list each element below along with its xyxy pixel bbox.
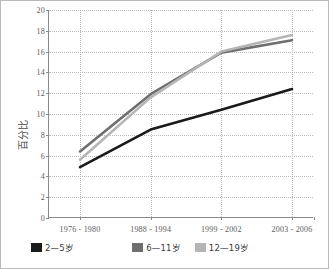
series-line-1 [80,40,292,151]
y-tick-label: 6 [41,151,45,160]
legend-item-0[interactable]: 2—5岁 [31,241,74,253]
x-tick-label: 1976 - 1980 [60,225,101,234]
x-tick-mark-end [314,217,315,220]
x-tick-label: 2003 - 2006 [272,225,313,234]
y-tick-label: 2 [41,193,45,202]
plot-area: 02468101214161820 1976 - 19801988 - 1994… [48,10,313,218]
y-tick-label: 10 [36,110,45,119]
legend-swatch-mid [132,243,143,252]
chart-legend: 2—5岁 6—11岁 12—19岁 [31,241,249,253]
y-tick-label: 12 [36,89,45,98]
x-tick-label: 1988 - 1994 [130,225,171,234]
y-tick-label: 20 [36,6,45,15]
y-tick-label: 8 [41,130,45,139]
y-tick-mark [46,218,49,219]
y-tick-label: 4 [41,172,45,181]
x-tick-label: 1999 - 2002 [201,225,242,234]
y-tick-label: 18 [36,26,45,35]
legend-item-1[interactable]: 6—11岁 [132,241,181,253]
y-tick-label: 16 [36,47,45,56]
legend-item-2[interactable]: 12—19岁 [195,241,249,253]
series-lines [49,10,314,218]
legend-swatch-light [195,243,206,252]
chart-figure: 百分比 02468101214161820 1976 - 19801988 - … [0,0,329,269]
y-tick-label: 0 [41,214,45,223]
series-line-0 [80,89,292,167]
y-axis-title: 百分比 [15,120,30,150]
legend-label-1: 6—11岁 [146,241,181,253]
legend-label-2: 12—19岁 [209,241,249,253]
y-tick-label: 14 [36,68,45,77]
legend-swatch-dark [31,243,42,252]
legend-label-0: 2—5岁 [45,241,74,253]
